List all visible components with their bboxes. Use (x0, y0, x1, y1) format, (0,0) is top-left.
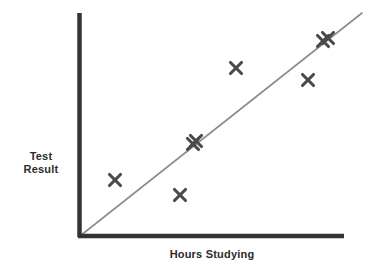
data-point-marker (303, 75, 314, 86)
scatter-plot-figure: Test Result Hours Studying (0, 0, 382, 268)
y-axis-label-line-1: Test (10, 150, 72, 163)
y-axis-label: Test Result (10, 150, 72, 176)
data-point-marker (231, 63, 242, 74)
data-markers (110, 33, 334, 201)
y-axis-label-line-2: Result (10, 163, 72, 176)
data-point-marker (110, 175, 121, 186)
data-point-marker (175, 190, 186, 201)
plot-canvas (0, 0, 382, 268)
x-axis-label: Hours Studying (78, 248, 346, 261)
